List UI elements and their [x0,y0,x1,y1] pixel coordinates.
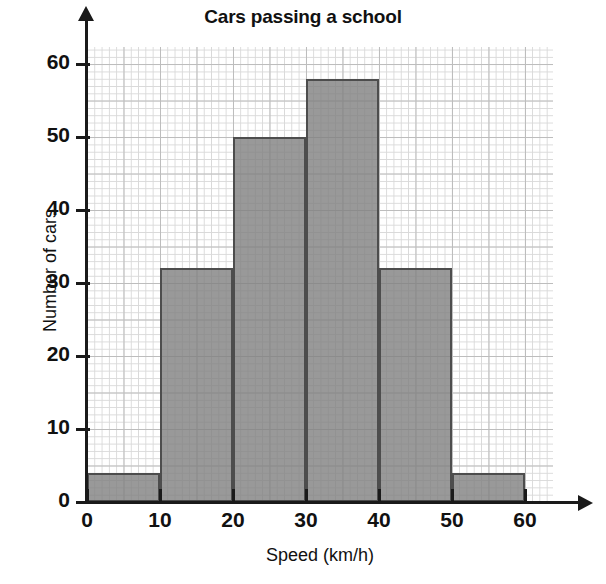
y-axis-label: Number of cars [40,141,61,401]
y-axis-tick [76,428,90,431]
y-axis-tick [76,209,90,212]
x-axis-tick-label: 60 [495,508,555,532]
x-axis-arrow-icon [578,495,593,511]
histogram-chart: Cars passing a school 010203040506001020… [0,0,606,584]
bar [233,137,306,502]
y-axis-tick [76,63,90,66]
y-axis-tick-label: 10 [16,415,70,439]
y-axis-line [85,18,88,504]
y-axis-tick [76,136,90,139]
y-axis-tick [76,282,90,285]
x-axis-tick [159,489,162,503]
bars-layer [87,47,553,502]
x-axis-tick [232,489,235,503]
x-axis-tick-label: 10 [130,508,190,532]
bar [306,79,379,502]
x-axis-tick-label: 30 [276,508,336,532]
y-axis-tick [76,501,90,504]
bar [87,473,160,502]
bar [379,268,452,502]
x-axis-line [76,501,582,504]
y-axis-tick [76,355,90,358]
x-axis-tick-label: 20 [203,508,263,532]
y-axis-tick-label: 0 [16,488,70,512]
x-axis-tick [305,489,308,503]
x-axis-tick [378,489,381,503]
x-axis-tick [451,489,454,503]
x-axis-label: Speed (km/h) [87,545,553,566]
bar [452,473,525,502]
y-axis-arrow-icon [78,6,94,21]
x-axis-tick-label: 50 [422,508,482,532]
y-axis-tick-label: 60 [16,50,70,74]
bar [160,268,233,502]
x-axis-tick [524,489,527,503]
x-axis-tick-label: 40 [349,508,409,532]
